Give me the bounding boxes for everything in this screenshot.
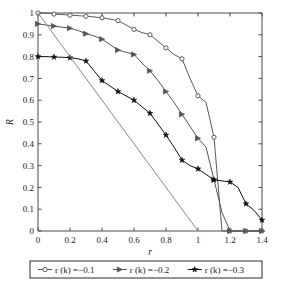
marker-circle — [180, 57, 184, 61]
y-tick-label: 0 — [30, 226, 35, 236]
y-tick-label: 0.7 — [23, 74, 35, 84]
marker-circle — [164, 46, 168, 50]
legend-label: r (k) =−0.3 — [205, 265, 245, 275]
y-tick-label: 0.4 — [23, 139, 35, 149]
y-tick-label: 0.3 — [23, 161, 35, 171]
legend-label: r (k) =−0.1 — [55, 265, 94, 275]
marker-circle — [132, 27, 136, 31]
y-tick-label: 0.5 — [23, 117, 35, 127]
marker-circle — [148, 33, 152, 37]
x-tick-label: 0 — [36, 235, 41, 245]
chart-background — [0, 0, 287, 287]
legend-label: r (k) =−0.2 — [130, 265, 169, 275]
figure: 00.20.40.60.811.21.400.10.20.30.40.50.60… — [0, 0, 287, 287]
marker-circle — [68, 13, 72, 17]
y-axis-label: R — [5, 119, 15, 126]
x-tick-label: 0.8 — [160, 235, 172, 245]
line-chart: 00.20.40.60.811.21.400.10.20.30.40.50.60… — [0, 0, 287, 287]
x-axis-label: r — [148, 247, 152, 257]
y-tick-label: 0.6 — [23, 95, 35, 105]
marker-circle — [212, 135, 216, 139]
x-tick-label: 1 — [196, 235, 201, 245]
x-tick-label: 1.4 — [256, 235, 268, 245]
marker-circle — [100, 16, 104, 20]
y-tick-label: 1 — [30, 8, 35, 18]
y-tick-label: 0.8 — [23, 52, 35, 62]
y-tick-label: 0.1 — [23, 204, 34, 214]
marker-circle — [52, 12, 56, 16]
y-tick-label: 0.2 — [23, 183, 34, 193]
x-tick-label: 0.4 — [96, 235, 108, 245]
marker-circle — [43, 267, 47, 271]
x-tick-label: 0.6 — [128, 235, 140, 245]
marker-circle — [116, 19, 120, 23]
marker-circle — [196, 94, 200, 98]
x-tick-label: 1.2 — [224, 235, 235, 245]
x-tick-label: 0.2 — [64, 235, 75, 245]
marker-circle — [84, 14, 88, 18]
y-tick-label: 0.9 — [23, 30, 35, 40]
